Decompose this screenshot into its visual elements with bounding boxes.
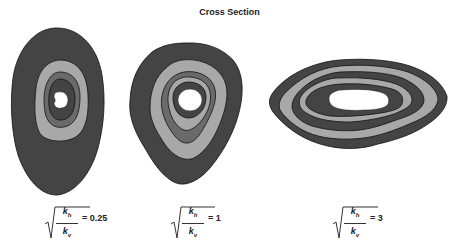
fraction: kh kv xyxy=(56,206,78,241)
denominator: kv xyxy=(344,226,366,241)
denominator: kv xyxy=(182,226,204,241)
ratio-value: = 1 xyxy=(208,213,221,223)
fraction-bar xyxy=(56,223,78,224)
ratio-value: = 3 xyxy=(370,213,383,223)
numerator: kh xyxy=(56,206,78,221)
fraction-bar xyxy=(344,223,366,224)
ratio-value: = 0.25 xyxy=(82,213,107,223)
core xyxy=(329,89,389,110)
fraction-bar xyxy=(182,223,204,224)
fraction: kh kv xyxy=(344,206,366,241)
numerator: kh xyxy=(182,206,204,221)
cross-section-ratio-1 xyxy=(130,43,242,184)
denominator: kv xyxy=(56,226,78,241)
cross-section-ratio-3 xyxy=(269,59,447,148)
numerator: kh xyxy=(344,206,366,221)
core xyxy=(54,92,68,108)
cross-section-ratio-0.25 xyxy=(11,28,104,195)
core xyxy=(178,89,202,111)
fraction: kh kv xyxy=(182,206,204,241)
